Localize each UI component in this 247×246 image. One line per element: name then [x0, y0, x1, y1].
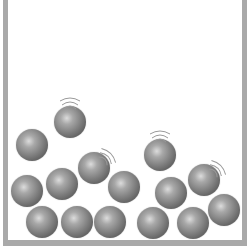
particle-ball — [16, 129, 48, 161]
particle-ball — [155, 177, 187, 209]
particle-ball — [94, 206, 126, 238]
particle-ball — [11, 175, 43, 207]
particle-ball — [61, 206, 93, 238]
container-wall-right — [242, 0, 247, 246]
particle-ball — [54, 106, 86, 138]
particle-ball — [208, 194, 240, 226]
particle-ball — [26, 206, 58, 238]
particle-ball — [177, 207, 209, 239]
particle-ball — [108, 171, 140, 203]
particle-container — [0, 0, 247, 246]
container-wall-left — [3, 0, 8, 246]
particle-ball — [78, 152, 110, 184]
particle-ball — [144, 139, 176, 171]
container-wall-bottom — [3, 240, 247, 246]
particle-ball — [46, 168, 78, 200]
particle-ball — [137, 207, 169, 239]
particle-ball — [188, 164, 220, 196]
